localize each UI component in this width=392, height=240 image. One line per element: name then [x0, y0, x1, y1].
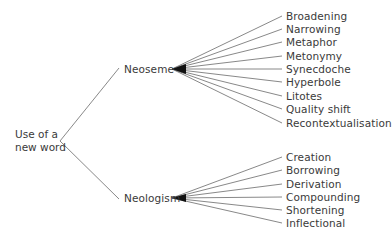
- leaf-creation: Creation: [286, 151, 331, 163]
- leaf-inflectional: Inflectional: [286, 217, 345, 229]
- leaf-quality-shift: Quality shift: [286, 103, 351, 115]
- root-label-line1: Use of a: [15, 128, 66, 141]
- leaf-recontextualisation: Recontextualisation: [286, 117, 392, 129]
- neologism-node: Neologism: [124, 192, 180, 204]
- leaf-compounding: Compounding: [286, 191, 360, 203]
- root-connector: [60, 68, 119, 199]
- neoseme-fan: [172, 16, 282, 123]
- leaf-borrowing: Borrowing: [286, 164, 340, 176]
- root-node: Use of a new word: [15, 128, 66, 154]
- leaf-narrowing: Narrowing: [286, 23, 341, 35]
- neologism-fan: [172, 157, 282, 223]
- leaf-synecdoche: Synecdoche: [286, 63, 351, 75]
- leaf-broadening: Broadening: [286, 10, 347, 22]
- leaf-litotes: Litotes: [286, 90, 322, 102]
- leaf-metaphor: Metaphor: [286, 36, 337, 48]
- leaf-metonymy: Metonymy: [286, 50, 342, 62]
- leaf-hyperbole: Hyperbole: [286, 76, 341, 88]
- leaf-shortening: Shortening: [286, 204, 345, 216]
- neoseme-node: Neoseme: [124, 63, 174, 75]
- root-label-line2: new word: [15, 141, 66, 154]
- leaf-derivation: Derivation: [286, 178, 342, 190]
